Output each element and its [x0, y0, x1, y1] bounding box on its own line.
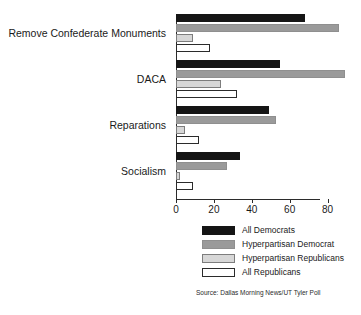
tick-mark [290, 199, 291, 203]
bar [176, 34, 193, 42]
plot-area: Remove Confederate MonumentsDACAReparati… [0, 0, 361, 210]
tick-mark [176, 199, 177, 203]
category-label: DACA [137, 74, 166, 85]
legend-item[interactable]: All Democrats [202, 224, 352, 236]
category-label: Reparations [109, 120, 166, 131]
tick-mark [214, 199, 215, 203]
bar-chart: Remove Confederate MonumentsDACAReparati… [0, 0, 361, 315]
bar [176, 116, 276, 124]
legend-item[interactable]: Hyperpartisan Republicans [202, 252, 352, 264]
tick-mark [252, 199, 253, 203]
legend-item[interactable]: All Republicans [202, 266, 352, 278]
legend-label: All Republicans [242, 267, 301, 277]
legend-label: Hyperpartisan Republicans [242, 253, 344, 263]
tick-label: 60 [284, 204, 295, 215]
tick-mark [328, 199, 329, 203]
bar [176, 44, 210, 52]
category-axis-labels: Remove Confederate MonumentsDACAReparati… [0, 14, 172, 200]
chart-legend: All DemocratsHyperpartisan DemocratHyper… [202, 224, 352, 280]
bar [176, 60, 280, 68]
legend-label: Hyperpartisan Democrat [242, 239, 334, 249]
category-label: Remove Confederate Monuments [8, 28, 166, 39]
bar [176, 126, 185, 134]
bar [176, 90, 237, 98]
bar [176, 152, 240, 160]
tick-label: 20 [208, 204, 219, 215]
bar-group [176, 14, 356, 60]
bar [176, 172, 180, 180]
legend-swatch-icon [202, 254, 235, 263]
legend-swatch-icon [202, 240, 235, 249]
legend-label: All Democrats [242, 225, 295, 235]
legend-item[interactable]: Hyperpartisan Democrat [202, 238, 352, 250]
x-axis-ticks: 020406080 [176, 199, 356, 219]
bar [176, 162, 227, 170]
bar [176, 14, 305, 22]
tick-label: 40 [246, 204, 257, 215]
bar-group [176, 152, 356, 198]
tick-label: 80 [322, 204, 333, 215]
bar [176, 24, 339, 32]
legend-swatch-icon [202, 226, 235, 235]
bar [176, 106, 269, 114]
category-label: Socialism [121, 166, 166, 177]
bar-group [176, 60, 356, 106]
bar [176, 70, 345, 78]
bar-group [176, 106, 356, 152]
bar [176, 80, 221, 88]
tick-label: 0 [173, 204, 179, 215]
source-caption: Source: Dallas Morning News/UT Tyler Pol… [196, 289, 320, 297]
bar [176, 182, 193, 190]
bars-container [176, 14, 356, 200]
bar [176, 136, 199, 144]
legend-swatch-icon [202, 268, 235, 277]
